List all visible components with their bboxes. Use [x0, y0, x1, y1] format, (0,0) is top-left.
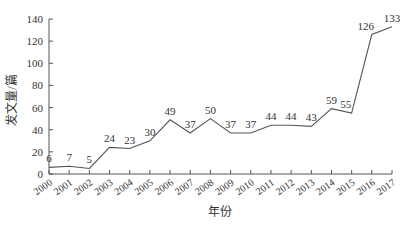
data-point-label: 37 — [185, 118, 197, 130]
x-tick-label: 2017 — [374, 177, 397, 197]
data-point-label: 5 — [87, 153, 93, 165]
data-point-label: 30 — [144, 126, 156, 138]
data-point-label: 59 — [326, 94, 338, 106]
data-point-label: 50 — [205, 104, 217, 116]
x-tick-label: 2011 — [254, 177, 276, 197]
x-tick-label: 2015 — [334, 177, 357, 197]
data-point-label: 37 — [225, 118, 237, 130]
data-point-label: 24 — [104, 132, 116, 144]
x-tick-label: 2013 — [294, 177, 317, 197]
x-tick-label: 2004 — [112, 177, 135, 197]
x-tick-label: 2001 — [52, 177, 75, 197]
x-tick-label: 2016 — [354, 177, 377, 197]
data-labels: 67524233049375037374444435955126133 — [46, 12, 401, 166]
x-tick-label: 2002 — [72, 177, 95, 197]
data-point-label: 23 — [124, 134, 136, 146]
x-axis-label: 年份 — [208, 205, 232, 219]
data-point-label: 44 — [265, 110, 277, 122]
data-point-label: 49 — [165, 105, 177, 117]
data-point-label: 44 — [286, 110, 298, 122]
y-tick-label: 20 — [32, 146, 44, 158]
y-axis-label: 发文量/篇 — [4, 74, 19, 125]
data-point-label: 126 — [358, 20, 375, 32]
data-point-label: 133 — [384, 12, 401, 24]
y-tick-label: 120 — [27, 35, 44, 47]
data-point-label: 43 — [306, 111, 318, 123]
data-point-label: 7 — [66, 151, 72, 163]
x-tick-label: 2006 — [153, 177, 176, 197]
chart-canvas: 020406080100120140 200020012002200320042… — [0, 0, 407, 226]
x-tick-label: 2014 — [314, 177, 337, 197]
x-tick-label: 2012 — [274, 177, 297, 197]
data-point-label: 6 — [46, 152, 52, 164]
y-tick-label: 0 — [38, 168, 44, 180]
y-tick-label: 100 — [27, 57, 44, 69]
data-point-label: 37 — [245, 118, 257, 130]
y-tick-label: 40 — [32, 124, 44, 136]
x-tick-label: 2003 — [92, 177, 115, 197]
x-tick-label: 2009 — [213, 177, 236, 197]
x-tick-label: 2007 — [173, 177, 196, 197]
y-tick-label: 80 — [32, 79, 44, 91]
x-tick-label: 2000 — [31, 177, 54, 197]
x-tick-label: 2005 — [132, 177, 155, 197]
x-tick-label: 2010 — [233, 177, 256, 197]
y-tick-label: 60 — [32, 102, 44, 114]
x-axis: 2000200120022003200420052006200720082009… — [31, 170, 397, 197]
x-tick-label: 2008 — [193, 177, 216, 197]
data-point-label: 55 — [340, 98, 352, 110]
line-chart: 020406080100120140 200020012002200320042… — [0, 0, 407, 226]
y-tick-label: 140 — [27, 13, 44, 25]
